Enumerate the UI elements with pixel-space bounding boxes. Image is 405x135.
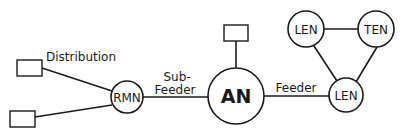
distribution-label: Distribution bbox=[46, 50, 116, 64]
distribution-box-bottom bbox=[10, 111, 35, 127]
feeder-label: Feeder bbox=[276, 81, 317, 95]
ten-label: TEN bbox=[363, 23, 388, 37]
network-diagram: RMN AN LEN LEN TEN Distribution Sub- Fee… bbox=[0, 0, 405, 135]
an-terminal-box bbox=[224, 25, 248, 41]
sub-feeder-label-line1: Sub- bbox=[163, 70, 190, 84]
len-top-label: LEN bbox=[294, 23, 317, 37]
distribution-box-top bbox=[17, 60, 42, 76]
an-label: AN bbox=[221, 85, 252, 107]
edge-len-bottom-len-top bbox=[314, 46, 337, 81]
edge-distribution-top bbox=[42, 68, 112, 91]
sub-feeder-label-line2: Feeder bbox=[155, 83, 196, 97]
rmn-label: RMN bbox=[113, 91, 141, 105]
len-bottom-label: LEN bbox=[334, 89, 357, 103]
edge-len-bottom-ten bbox=[356, 47, 377, 82]
edge-distribution-bottom bbox=[35, 105, 112, 117]
